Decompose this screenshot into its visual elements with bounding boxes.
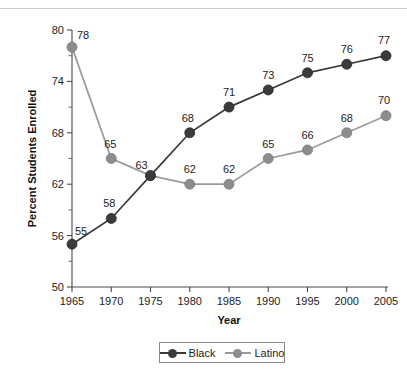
legend-label-black: Black xyxy=(189,347,216,359)
point-label-black: 55 xyxy=(75,225,87,237)
y-tick-label: 68 xyxy=(52,127,64,139)
x-tick-label: 1970 xyxy=(99,295,123,307)
x-axis-title: Year xyxy=(217,314,241,326)
x-tick-label: 1990 xyxy=(256,295,280,307)
data-point-black xyxy=(381,51,391,61)
point-label-latino: 65 xyxy=(262,138,274,150)
point-label-latino: 66 xyxy=(301,129,313,141)
legend-label-latino: Latino xyxy=(254,347,284,359)
data-point-latino xyxy=(185,179,195,189)
data-point-black xyxy=(146,171,156,181)
y-tick-label: 74 xyxy=(52,75,64,87)
data-point-black xyxy=(303,68,313,78)
line-chart-canvas: 505662687480 196519701975198019851990199… xyxy=(0,0,407,372)
x-tick-label: 2005 xyxy=(374,295,398,307)
x-tick-label: 1995 xyxy=(295,295,319,307)
point-label-black: 68 xyxy=(182,112,194,124)
y-tick-label: 50 xyxy=(52,281,64,293)
x-axis: 196519701975198019851990199520002005 xyxy=(60,287,398,307)
x-tick-label: 1975 xyxy=(138,295,162,307)
chart-legend: Black Latino xyxy=(159,342,285,363)
x-tick-label: 1985 xyxy=(217,295,241,307)
data-point-black xyxy=(106,213,116,223)
point-label-black: 77 xyxy=(378,34,390,46)
data-point-black xyxy=(67,239,77,249)
data-point-latino xyxy=(106,154,116,164)
data-point-latino xyxy=(67,42,77,52)
data-point-latino xyxy=(224,179,234,189)
point-label-black: 75 xyxy=(301,52,313,64)
y-axis: 505662687480 xyxy=(52,24,72,293)
data-point-black xyxy=(185,128,195,138)
data-point-latino xyxy=(303,145,313,155)
x-tick-label: 1965 xyxy=(60,295,84,307)
data-point-black xyxy=(342,59,352,69)
legend-marker-latino-icon xyxy=(225,348,251,358)
point-label-black: 76 xyxy=(341,43,353,55)
point-label-latino: 65 xyxy=(104,138,116,150)
y-tick-label: 62 xyxy=(52,178,64,190)
point-label-black: 71 xyxy=(223,86,235,98)
legend-item-black: Black xyxy=(160,347,216,359)
legend-marker-black-icon xyxy=(160,348,186,358)
data-point-black xyxy=(263,85,273,95)
data-point-latino xyxy=(263,154,273,164)
point-label-black: 58 xyxy=(103,197,115,209)
point-label-latino: 70 xyxy=(378,94,390,106)
chart-figure: 505662687480 196519701975198019851990199… xyxy=(0,0,407,372)
x-tick-label: 2000 xyxy=(335,295,359,307)
y-tick-label: 80 xyxy=(52,24,64,36)
point-label-latino: 78 xyxy=(77,29,89,41)
point-label-latino: 68 xyxy=(341,112,353,124)
y-tick-label: 56 xyxy=(52,230,64,242)
x-tick-label: 1980 xyxy=(178,295,202,307)
data-point-latino xyxy=(381,111,391,121)
point-label-latino: 62 xyxy=(184,163,196,175)
series-line-black xyxy=(72,56,386,244)
point-label-latino: 62 xyxy=(223,163,235,175)
point-label-black: 63 xyxy=(135,159,147,171)
data-point-latino xyxy=(342,128,352,138)
data-point-black xyxy=(224,102,234,112)
y-axis-title: Percent Students Enrolled xyxy=(26,90,38,228)
point-label-black: 73 xyxy=(262,69,274,81)
legend-item-latino: Latino xyxy=(225,347,284,359)
